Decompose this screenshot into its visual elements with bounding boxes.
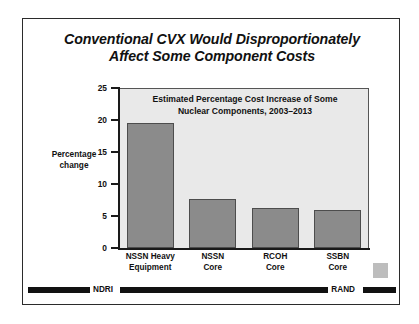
footer-rule-left [28,287,90,293]
bar [127,123,174,248]
bar-chart: Percentage change Estimated Percentage C… [23,19,401,306]
chart-title: Estimated Percentage Cost Increase of So… [126,94,364,117]
y-tick-mark [111,247,118,248]
bar [189,199,236,248]
y-tick-label: 20 [85,116,107,125]
y-tick-mark [111,183,118,184]
y-tick-mark [111,215,118,216]
slide-frame: Conventional CVX Would Disproportionatel… [22,18,400,305]
x-tick-label-line2: Core [298,263,378,274]
y-tick-label: 15 [85,148,107,157]
x-axis-line [118,248,370,250]
y-axis-line [118,87,120,250]
y-tick-mark [111,119,118,120]
x-tick-label: SSBNCore [298,252,378,273]
y-tick-mark [111,151,118,152]
footer-band: NDRI RAND [28,284,396,295]
y-axis-title-line2: change [37,160,111,171]
footer-label-rand: RAND [328,284,358,295]
y-tick-label: 10 [85,180,107,189]
footer-rule-middle [120,287,353,293]
bar [252,208,299,248]
x-tick-label-line1: SSBN [326,252,349,261]
footer-label-ndri: NDRI [90,284,116,295]
x-tick-label-line1: NSSN [201,252,224,261]
slide-root: Conventional CVX Would Disproportionatel… [0,0,419,324]
y-tick-label: 0 [85,244,107,253]
chart-title-line2: Nuclear Components, 2003–2013 [126,106,364,118]
y-tick-label: 5 [85,212,107,221]
bar [314,210,361,248]
y-tick-mark [111,87,118,88]
chart-title-line1: Estimated Percentage Cost Increase of So… [153,94,338,104]
y-tick-label: 25 [85,84,107,93]
corner-square-mark [373,263,388,278]
x-tick-label-line1: RCOH [263,252,287,261]
x-tick-label-line1: NSSN Heavy [126,252,175,261]
footer-rule-right [363,287,396,293]
